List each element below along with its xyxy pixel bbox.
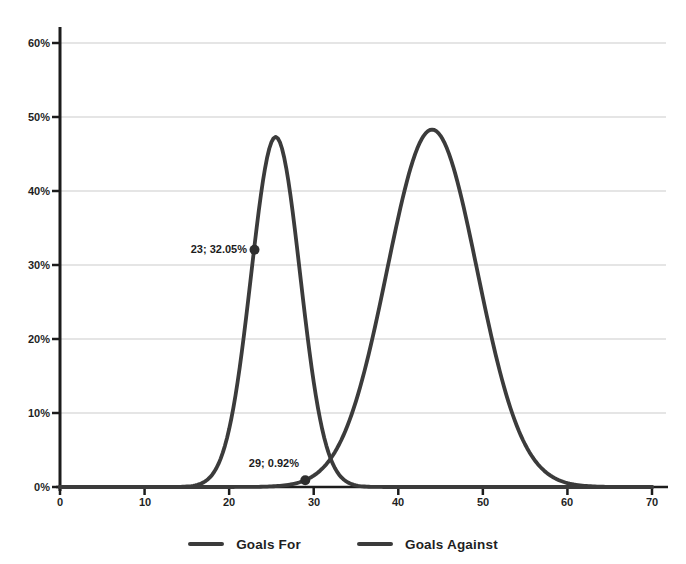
legend-label: Goals Against (405, 537, 498, 552)
y-axis-tick-label: 0% (0, 479, 50, 495)
y-axis-tick-label: 60% (0, 35, 50, 51)
x-axis-tick-label: 40 (378, 495, 418, 509)
x-axis-tick-label: 20 (209, 495, 249, 509)
legend-item-goals-for: Goals For (188, 537, 301, 552)
x-axis-tick-label: 50 (463, 495, 503, 509)
legend-label: Goals For (236, 537, 301, 552)
data-point-label: 29; 0.92% (189, 456, 299, 471)
x-axis-tick-label: 0 (40, 495, 80, 509)
data-point-label: 23; 32.05% (137, 242, 247, 257)
plot-area (0, 0, 686, 564)
distribution-chart: 0% 10% 20% 30% 40% 50% 60% 0 10 20 30 40… (0, 0, 686, 564)
goals-for-line-swatch-icon (188, 542, 224, 546)
x-axis-tick-label: 60 (547, 495, 587, 509)
y-axis-tick-label: 20% (0, 331, 50, 347)
y-axis-tick-label: 40% (0, 183, 50, 199)
y-axis-tick-label: 50% (0, 109, 50, 125)
x-axis-tick-label: 70 (632, 495, 672, 509)
goals-against-line-swatch-icon (357, 542, 393, 546)
x-axis-tick-label: 30 (294, 495, 334, 509)
chart-legend: Goals For Goals Against (0, 532, 686, 556)
x-axis-tick-label: 10 (125, 495, 165, 509)
legend-item-goals-against: Goals Against (357, 537, 498, 552)
y-axis-tick-label: 30% (0, 257, 50, 273)
y-axis-tick-label: 10% (0, 405, 50, 421)
